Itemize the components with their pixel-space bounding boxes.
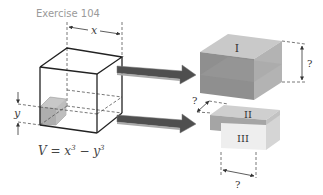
arrow-to-pieces-2-3 — [117, 114, 196, 133]
piece-3: III ? — [221, 115, 280, 190]
depth-unknown-label: ? — [192, 95, 197, 106]
x-label: x — [91, 24, 98, 37]
piece-1: I ? — [200, 34, 312, 100]
main-cube-hidden-edges — [18, 48, 122, 125]
volume-formula: V = x3 − y3 — [38, 144, 105, 158]
x-dimension: x — [67, 22, 122, 57]
piece-3-label: III — [237, 133, 249, 144]
y-label: y — [13, 107, 21, 120]
y-dimension: y — [13, 92, 21, 135]
piece-1-label: I — [235, 42, 239, 55]
piece-3-width-unknown: ? — [235, 179, 240, 190]
arrow-to-piece-1 — [117, 65, 196, 84]
cube-decomposition-diagram: x y V = x3 − y3 — [0, 0, 323, 195]
piece-2-label: II — [244, 109, 252, 120]
small-cube-y — [40, 97, 66, 125]
piece-1-height-unknown: ? — [307, 58, 312, 69]
